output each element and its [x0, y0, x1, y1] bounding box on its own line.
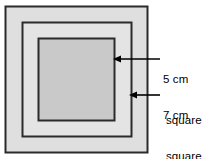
nested-squares-diagram: 5 cm square 7 cm square — [0, 0, 213, 159]
inner-square — [39, 39, 115, 121]
outer-square-label-line1: 7 cm — [163, 109, 202, 123]
outer-square-label: 7 cm square — [163, 82, 202, 159]
outer-square-label-line2: square — [163, 150, 202, 160]
